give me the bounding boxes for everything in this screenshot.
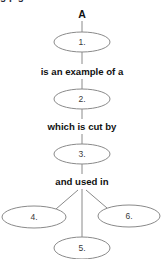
node-6[interactable]: 6.: [98, 205, 160, 227]
node-6-label: 6.: [125, 211, 132, 221]
link-label-is-an-example-of-a: is an example of a: [41, 66, 124, 77]
node-3-label: 3.: [78, 149, 85, 159]
concept-map-diagram: g p g A 1. 2. 3.: [0, 0, 163, 259]
node-5[interactable]: 5.: [54, 237, 110, 259]
node-4[interactable]: 4.: [2, 206, 66, 228]
node-2-label: 2.: [78, 94, 85, 104]
link-label-and-used-in: and used in: [55, 176, 108, 187]
node-4-label: 4.: [30, 212, 37, 222]
node-5-label: 5.: [78, 243, 85, 253]
edge-link3-to-node4: [56, 190, 78, 209]
node-1[interactable]: 1.: [54, 32, 110, 52]
link-label-which-is-cut-by: which is cut by: [47, 121, 117, 132]
edge-link3-to-node6: [86, 190, 107, 208]
node-2[interactable]: 2.: [54, 89, 110, 109]
node-3[interactable]: 3.: [54, 144, 110, 164]
diagram-canvas: A 1. 2. 3. 4. 6. 5. is an example of a: [0, 0, 163, 259]
node-1-label: 1.: [78, 37, 85, 47]
root-node-label: A: [78, 8, 86, 20]
